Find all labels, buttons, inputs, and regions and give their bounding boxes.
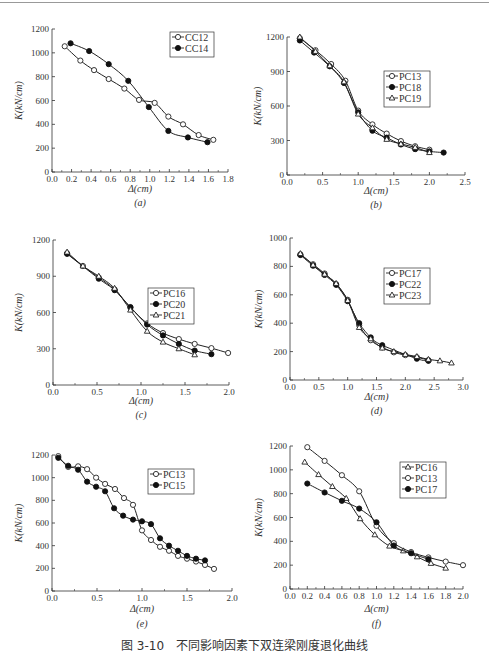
filled-circle-marker bbox=[202, 558, 207, 563]
y-tick-label: 600 bbox=[274, 290, 288, 300]
chart-panel-b: 0.00.51.01.52.02.503006009001200Δ(cm)K(k… bbox=[252, 32, 471, 211]
x-tick-label: 1.6 bbox=[203, 174, 215, 184]
y-tick-label: 400 bbox=[36, 541, 50, 551]
legend-entry: PC21 bbox=[163, 310, 185, 321]
x-tick-label: 0.5 bbox=[91, 593, 103, 603]
open-circle-marker bbox=[85, 467, 90, 472]
y-tick-label: 600 bbox=[271, 101, 285, 111]
filled-circle-marker bbox=[389, 281, 394, 286]
filled-circle-marker bbox=[441, 150, 446, 155]
figure-canvas: 0.00.20.40.60.81.01.21.41.61.80200400600… bbox=[0, 0, 489, 652]
filled-circle-marker bbox=[185, 135, 190, 140]
series-line bbox=[67, 253, 228, 353]
x-tick-label: 0.2 bbox=[66, 174, 77, 184]
x-tick-label: 2.0 bbox=[457, 591, 469, 601]
y-tick-label: 1000 bbox=[269, 233, 288, 243]
y-tick-label: 600 bbox=[36, 518, 50, 528]
x-tick-label: 1.0 bbox=[353, 177, 365, 187]
open-circle-marker bbox=[157, 544, 162, 549]
filled-circle-marker bbox=[157, 536, 162, 541]
y-tick-label: 1000 bbox=[269, 465, 288, 475]
panel-label: (c) bbox=[135, 409, 147, 421]
y-tick-label: 800 bbox=[36, 72, 50, 82]
open-circle-marker bbox=[91, 68, 96, 73]
filled-circle-marker bbox=[339, 498, 344, 503]
open-circle-marker bbox=[62, 44, 67, 49]
x-tick-label: 1.5 bbox=[179, 387, 191, 397]
open-circle-marker bbox=[136, 97, 141, 102]
y-tick-label: 600 bbox=[274, 513, 288, 523]
legend: PC16PC20PC21 bbox=[148, 288, 194, 325]
legend: PC13PC15 bbox=[148, 469, 194, 495]
x-axis-label: Δ(cm) bbox=[363, 603, 389, 615]
filled-circle-marker bbox=[374, 520, 379, 525]
series-pc16 bbox=[64, 251, 230, 356]
legend-entry: PC15 bbox=[163, 480, 185, 491]
open-circle-marker bbox=[405, 475, 410, 480]
filled-circle-marker bbox=[193, 556, 198, 561]
open-circle-marker bbox=[103, 481, 108, 486]
x-axis-label: Δ(cm) bbox=[363, 185, 389, 197]
open-circle-marker bbox=[443, 559, 448, 564]
x-tick-label: 0.4 bbox=[85, 174, 97, 184]
y-tick-label: 900 bbox=[37, 271, 51, 281]
x-tick-label: 1.4 bbox=[183, 174, 195, 184]
legend: PC13PC18PC19 bbox=[384, 71, 430, 108]
y-tick-label: 1200 bbox=[31, 24, 50, 34]
open-circle-marker bbox=[322, 458, 327, 463]
open-circle-marker bbox=[122, 86, 127, 91]
open-circle-marker bbox=[78, 58, 83, 63]
legend: PC16PC13PC17 bbox=[400, 462, 446, 499]
y-tick-label: 300 bbox=[37, 344, 51, 354]
x-tick-label: 1.6 bbox=[423, 591, 435, 601]
y-axis-label: K(kN/cm) bbox=[13, 80, 25, 121]
open-circle-marker bbox=[180, 122, 185, 127]
open-circle-marker bbox=[166, 114, 171, 119]
open-circle-marker bbox=[153, 471, 158, 476]
y-tick-label: 400 bbox=[274, 536, 288, 546]
y-tick-label: 300 bbox=[271, 136, 285, 146]
filled-circle-marker bbox=[94, 484, 99, 489]
y-axis-label: K(kN/cm) bbox=[253, 289, 265, 330]
x-tick-label: 1.5 bbox=[181, 593, 193, 603]
panel-label: (a) bbox=[134, 197, 146, 209]
filled-circle-marker bbox=[322, 490, 327, 495]
open-triangle-marker bbox=[302, 459, 308, 464]
open-circle-marker bbox=[121, 495, 126, 500]
filled-circle-marker bbox=[184, 553, 189, 558]
filled-circle-marker bbox=[68, 41, 73, 46]
open-circle-marker bbox=[192, 341, 197, 346]
y-tick-label: 600 bbox=[36, 96, 50, 106]
filled-circle-marker bbox=[87, 48, 92, 53]
x-axis-label: Δ(cm) bbox=[127, 183, 153, 195]
y-tick-label: 1000 bbox=[31, 473, 50, 483]
filled-circle-marker bbox=[175, 548, 180, 553]
x-tick-label: 0.5 bbox=[91, 387, 103, 397]
legend: CC12CC14 bbox=[170, 32, 214, 58]
chart-panel-f: 0.00.20.40.60.81.01.21.41.61.82.00200400… bbox=[253, 441, 469, 630]
series-line bbox=[65, 46, 214, 140]
legend-entry: PC23 bbox=[399, 290, 421, 301]
filled-circle-marker bbox=[166, 128, 171, 133]
open-circle-marker bbox=[196, 132, 201, 137]
filled-circle-marker bbox=[126, 78, 131, 83]
filled-circle-marker bbox=[305, 481, 310, 486]
panel-label: (b) bbox=[370, 199, 382, 211]
legend-entry: CC14 bbox=[185, 43, 208, 54]
y-tick-label: 800 bbox=[274, 261, 288, 271]
open-triangle-marker bbox=[160, 339, 166, 344]
panel-label: (d) bbox=[371, 405, 383, 417]
filled-circle-marker bbox=[121, 513, 126, 518]
x-tick-label: 0.2 bbox=[302, 591, 313, 601]
legend-entry: PC13 bbox=[163, 469, 185, 480]
legend: PC17PC22PC23 bbox=[384, 268, 430, 305]
x-tick-label: 2.5 bbox=[429, 382, 441, 392]
x-tick-label: 0.8 bbox=[354, 591, 366, 601]
chart-panel-a: 0.00.20.40.60.81.01.21.41.61.80200400600… bbox=[13, 24, 234, 209]
chart-panel-e: 0.00.51.01.52.0020040060080010001200Δ(cm… bbox=[13, 450, 238, 630]
series-cc12 bbox=[62, 44, 216, 143]
y-tick-label: 200 bbox=[274, 560, 288, 570]
x-tick-label: 1.8 bbox=[440, 591, 452, 601]
legend-entry: PC22 bbox=[399, 279, 421, 290]
x-tick-label: 0.4 bbox=[319, 591, 331, 601]
